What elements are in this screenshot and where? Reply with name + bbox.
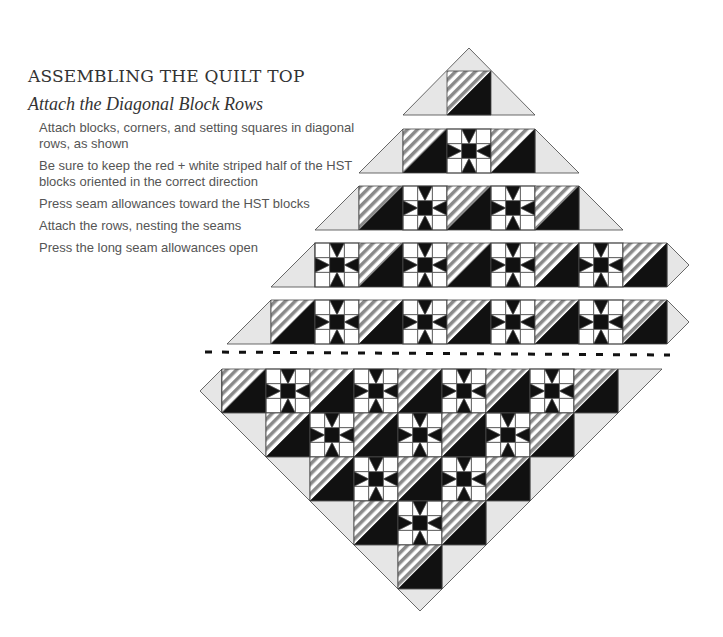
star-center	[594, 258, 609, 273]
star-center	[457, 384, 472, 399]
star-center	[369, 384, 384, 399]
star-center	[418, 258, 433, 273]
setting-triangle-right	[530, 457, 574, 501]
setting-triangle-right	[579, 186, 623, 230]
star-center	[330, 315, 345, 330]
setting-triangle-left	[266, 457, 310, 501]
setting-triangle-left	[354, 545, 398, 589]
star-center	[369, 472, 384, 487]
setting-triangle-right	[574, 413, 618, 457]
star-center	[545, 384, 560, 399]
setting-triangle-bottom	[398, 589, 442, 611]
corner-triangle-right	[667, 243, 689, 287]
setting-triangle-left	[271, 243, 315, 287]
setting-triangle-left	[359, 129, 403, 173]
corner-triangle-left	[200, 369, 222, 413]
setting-triangle-left	[227, 300, 271, 344]
star-center	[413, 428, 428, 443]
setting-triangle-left	[222, 413, 266, 457]
star-center	[281, 384, 296, 399]
star-center	[330, 258, 345, 273]
star-center	[501, 428, 516, 443]
setting-triangle-right	[618, 369, 662, 413]
star-center	[418, 315, 433, 330]
setting-triangle-right	[486, 501, 530, 545]
star-center	[418, 201, 433, 216]
star-center	[594, 315, 609, 330]
dashed-seam-line	[205, 352, 670, 355]
star-center	[506, 315, 521, 330]
star-center	[325, 428, 340, 443]
star-center	[506, 258, 521, 273]
quilt-assembly-diagram	[0, 0, 723, 637]
star-center	[506, 201, 521, 216]
star-center	[462, 144, 477, 159]
setting-triangle-left	[315, 186, 359, 230]
star-center	[457, 472, 472, 487]
setting-triangle-right	[442, 545, 486, 589]
setting-triangle-right	[535, 129, 579, 173]
star-center	[413, 516, 428, 531]
setting-triangle-left	[310, 501, 354, 545]
corner-triangle-right	[667, 300, 689, 344]
